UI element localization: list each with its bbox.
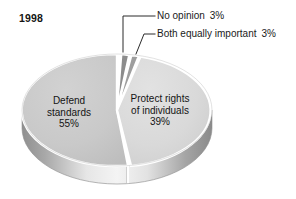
slice-label-protect-rights: Protect rights of individuals 39% (117, 93, 203, 128)
callout-label-no-opinion: No opinion3% (157, 10, 224, 22)
slice-label-defend-value: 55% (33, 118, 105, 130)
slice-label-protect-line1: Protect rights (117, 93, 203, 105)
callout-both-equally-important-value: 3% (262, 28, 276, 39)
slice-label-defend-line2: standards (33, 107, 105, 119)
callout-both-equally-important-text: Both equally important (157, 28, 257, 39)
slice-label-protect-value: 39% (117, 116, 203, 128)
callout-no-opinion-text: No opinion (157, 10, 205, 21)
slice-label-protect-line2: of individuals (117, 105, 203, 117)
callout-leader-lines (123, 16, 155, 54)
pie-chart-figure: 1998 (0, 0, 296, 199)
leader-line-both-equally-important (136, 34, 155, 54)
slice-label-defend-standards: Defend standards 55% (33, 95, 105, 130)
slice-label-defend-line1: Defend (33, 95, 105, 107)
callout-no-opinion-value: 3% (210, 10, 224, 21)
callout-label-both-equally-important: Both equally important3% (157, 28, 276, 40)
